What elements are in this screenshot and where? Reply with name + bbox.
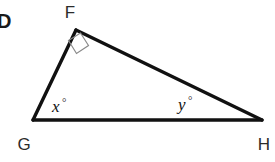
angle-label-x-value: x [51,97,60,116]
vertex-label-f: F [65,3,75,22]
angle-label-x-degree: ° [62,96,66,108]
triangle-side-fh [76,30,262,120]
item-letter: D [0,10,11,32]
vertex-label-g: G [17,135,30,154]
angle-label-y-value: y [176,95,186,114]
angle-label-x: x ° [51,96,66,116]
vertex-label-h: H [258,135,270,154]
triangle-diagram: D F G H x ° y ° [0,0,275,162]
angle-label-y: y ° [176,94,192,114]
angle-label-y-degree: ° [188,94,192,106]
